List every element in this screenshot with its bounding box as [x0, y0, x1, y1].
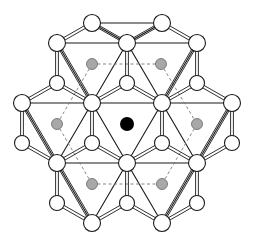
interstitial-atom — [157, 179, 168, 190]
lattice-atom — [119, 155, 136, 172]
lattice-atom — [84, 15, 101, 32]
lattice-atom — [84, 215, 101, 232]
lattice-atom — [49, 155, 66, 172]
central-atom — [120, 117, 134, 131]
interstitial-atom — [52, 119, 63, 130]
lattice-atom — [84, 95, 101, 112]
lattice-atom — [189, 35, 206, 52]
lattice-atom — [85, 136, 100, 151]
interstitial-atom — [192, 119, 203, 130]
lattice-atom — [224, 95, 241, 112]
lattice-atom — [14, 95, 31, 112]
lattice-atom — [50, 196, 65, 211]
lattice-atom — [190, 76, 205, 91]
lattice-atom — [189, 155, 206, 172]
lattice-atom — [155, 136, 170, 151]
lattice-atom — [15, 136, 30, 151]
lattice-atom — [190, 196, 205, 211]
lattice-atom — [120, 196, 135, 211]
lattice-atom — [154, 95, 171, 112]
crystal-lattice-diagram — [0, 0, 255, 250]
lattice-atom — [225, 136, 240, 151]
center-atom — [120, 117, 134, 131]
lattice-atom — [49, 35, 66, 52]
lattice-atom — [154, 215, 171, 232]
lattice-atom — [154, 15, 171, 32]
lattice-atom — [50, 76, 65, 91]
interstitial-atom — [156, 59, 167, 70]
interstitial-atom — [87, 59, 98, 70]
interstitial-atom — [87, 179, 98, 190]
lattice-atom — [119, 35, 136, 52]
lattice-atom — [120, 76, 135, 91]
